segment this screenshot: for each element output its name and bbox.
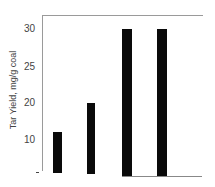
bar-chart: Tar Yield, mg/g coal 30 25 20 10 xyxy=(0,0,215,187)
y-axis-line xyxy=(42,15,43,171)
bar-4 xyxy=(157,29,167,176)
bar-2 xyxy=(87,103,95,174)
bar-3 xyxy=(122,29,132,176)
y-tick-30: 30 xyxy=(24,24,35,34)
x-axis-baseline xyxy=(122,176,202,177)
top-frame-line xyxy=(42,15,203,16)
y-tick-20: 20 xyxy=(24,98,35,108)
bar-1 xyxy=(53,132,62,173)
y-axis-label: Tar Yield, mg/g coal xyxy=(8,51,18,130)
y-tick-10: 10 xyxy=(24,135,35,145)
zero-tick-mark xyxy=(36,172,39,173)
y-tick-25: 25 xyxy=(24,62,35,72)
